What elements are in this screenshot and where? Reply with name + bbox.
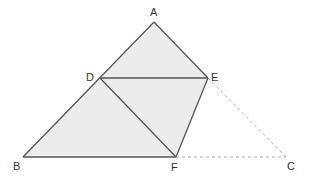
point-label-c: C	[287, 160, 295, 172]
point-label-b: B	[13, 160, 20, 172]
point-label-a: A	[150, 6, 158, 18]
shaded-region	[23, 22, 208, 157]
point-label-d: D	[86, 71, 94, 83]
geometry-diagram: A D E B F C	[0, 0, 309, 179]
dashed-segment-ec	[208, 78, 286, 157]
point-label-e: E	[211, 71, 218, 83]
point-label-f: F	[171, 161, 178, 173]
